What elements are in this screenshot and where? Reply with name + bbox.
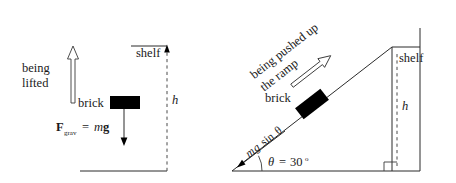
mgsin-sin: sin [258,130,276,148]
angle-label-group: θ = 30 o [268,155,309,169]
angle-value: 30 [290,155,303,169]
height-label-right: h [402,99,408,113]
brick-label-right: brick [265,91,291,105]
left-panel-group: being lifted brick shelf h F grav = m g [22,45,178,172]
height-label-left: h [172,93,178,107]
angle-degree-symbol: o [305,155,309,163]
force-mass-m: m [94,120,103,134]
mgsin-theta: θ [272,124,284,137]
push-label-group: being pushed up the ramp [248,20,331,94]
gravity-force-label: F grav = m g [56,120,110,137]
gravity-force-arrow [121,109,128,146]
force-gravity-g: g [103,120,110,134]
force-subscript-grav: grav [64,129,77,137]
force-equals-sign: = [82,120,89,134]
shelf-label-right: shelf [399,51,424,65]
brick-block-right [295,89,329,120]
angle-theta-symbol: θ [268,155,274,169]
right-angle-marker [384,162,397,171]
angle-equals-sign: = [279,155,286,169]
brick-block-left [110,96,140,109]
lift-label-line2: lifted [22,76,49,90]
physics-diagram: being lifted brick shelf h F grav = m g [0,0,456,183]
shelf-label-left: shelf [136,46,161,60]
diagram-canvas: being lifted brick shelf h F grav = m g [0,0,456,183]
angle-arc [259,156,263,171]
right-panel-group: being pushed up the ramp brick m g sin θ… [232,20,424,171]
lift-direction-arrow [68,46,79,103]
force-symbol-F: F [56,120,64,134]
lift-label-line1: being [22,61,51,75]
brick-label-left: brick [78,96,104,110]
